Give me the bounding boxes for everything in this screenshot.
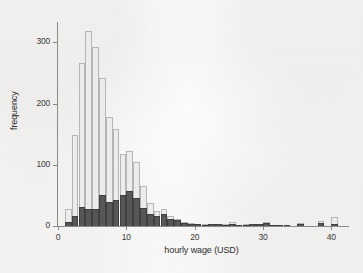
y-tick-mark [53,104,57,105]
histogram-bar-subgroup [202,225,209,227]
y-tick-label: 300 [36,36,50,46]
histogram-bar-subgroup [120,195,127,226]
histogram-bar-subgroup [140,208,147,226]
histogram-bar-total [72,135,79,226]
histogram-chart: 0100200300 010203040 hourly wage (USD) f… [0,0,363,273]
histogram-bar-subgroup [126,191,133,227]
histogram-bar-subgroup [270,225,277,227]
y-tick-label: 100 [36,159,50,169]
histogram-bar-subgroup [331,224,338,226]
histogram-bar-subgroup [167,219,174,226]
histogram-bar-subgroup [263,223,270,226]
y-tick-mark [53,226,57,227]
histogram-bar-subgroup [85,209,92,226]
histogram-bar-subgroup [106,202,113,226]
histogram-bar-subgroup [284,225,291,227]
x-tick-label: 40 [327,232,336,242]
histogram-bar-subgroup [277,225,284,227]
histogram-bar-subgroup [229,224,236,226]
y-tick-label: 0 [45,220,50,230]
histogram-bar-subgroup [297,224,304,226]
histogram-bar-subgroup [236,225,243,227]
y-tick-mark [53,165,57,166]
histogram-bar-subgroup [174,220,181,226]
x-tick-label: 30 [258,232,267,242]
y-axis-title: frequency [9,91,19,130]
x-tick-label: 0 [56,232,61,242]
histogram-bar-subgroup [147,214,154,226]
histogram-bar-subgroup [161,214,168,226]
x-tick-label: 20 [190,232,199,242]
x-tick-mark [331,226,332,230]
x-axis-line [57,226,349,227]
x-tick-mark [195,226,196,230]
histogram-screenshot: 0100200300 010203040 hourly wage (USD) f… [0,0,363,273]
y-tick-mark [53,42,57,43]
histogram-bar-subgroup [65,222,72,226]
histogram-bar-subgroup [215,224,222,226]
histogram-bar-subgroup [181,223,188,226]
bars-layer [58,24,345,226]
histogram-bar-subgroup [99,195,106,226]
plot-area [58,24,345,226]
x-tick-label: 10 [122,232,131,242]
x-tick-mark [58,226,59,230]
histogram-bar-subgroup [249,224,256,226]
y-tick-label: 200 [36,98,50,108]
x-tick-mark [126,226,127,230]
histogram-bar-subgroup [79,207,86,226]
histogram-bar-subgroup [243,225,250,227]
histogram-bar-subgroup [208,224,215,226]
histogram-bar-total [92,47,99,226]
histogram-bar-total [85,31,92,226]
histogram-bar-subgroup [113,200,120,226]
histogram-bar-subgroup [318,223,325,226]
histogram-bar-subgroup [222,225,229,227]
histogram-bar-subgroup [72,216,79,226]
x-axis-title: hourly wage (USD) [58,245,345,255]
histogram-bar-total [79,63,86,226]
x-tick-mark [263,226,264,230]
histogram-bar-subgroup [154,216,161,226]
histogram-bar-subgroup [133,198,140,226]
histogram-bar-subgroup [195,224,202,226]
histogram-bar-subgroup [92,209,99,226]
histogram-bar-subgroup [256,224,263,226]
histogram-bar-subgroup [188,224,195,226]
